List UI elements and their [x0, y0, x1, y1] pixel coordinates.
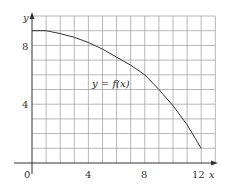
x-axis-label: x [209, 169, 215, 180]
y-axis-arrow-icon [30, 12, 35, 19]
y-axis-label: y [22, 12, 29, 23]
y-tick-8: 8 [22, 41, 28, 52]
x-axis-arrow-icon [211, 161, 218, 166]
x-tick-12: 12 [192, 169, 205, 180]
chart-canvas: y x 0 4 8 12 4 8 y = f(x) [0, 0, 227, 187]
x-tick-8: 8 [141, 169, 147, 180]
grid-lines [32, 16, 215, 163]
y-tick-4: 4 [22, 99, 28, 110]
x-tick-4: 4 [85, 169, 91, 180]
curve-label: y = f(x) [91, 78, 130, 89]
origin-label: 0 [24, 169, 30, 180]
